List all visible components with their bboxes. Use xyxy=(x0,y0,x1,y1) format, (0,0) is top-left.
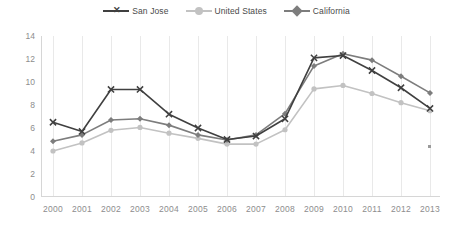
x-tick-label: 2013 xyxy=(420,204,440,214)
legend-item-san-jose[interactable]: ✕ San Jose xyxy=(103,6,168,16)
data-point-marker xyxy=(282,116,288,122)
y-tick-label: 0 xyxy=(30,192,35,202)
data-point-marker xyxy=(398,100,403,105)
x-tick-label: 2011 xyxy=(362,204,381,214)
data-point-marker xyxy=(79,140,84,145)
data-point-marker xyxy=(137,116,143,122)
series-line xyxy=(53,54,430,141)
data-point-marker xyxy=(50,138,56,144)
data-point-marker xyxy=(369,91,374,96)
data-point-marker xyxy=(166,131,171,136)
x-tick-label: 2012 xyxy=(391,204,411,214)
y-tick-label: 6 xyxy=(30,123,35,133)
legend-item-california[interactable]: California xyxy=(284,6,350,16)
plot-area: 14121086420 2000200120022003200420052006… xyxy=(41,36,440,197)
data-point-marker xyxy=(311,86,316,91)
x-tick-label: 2002 xyxy=(101,204,121,214)
legend-marker-circle-icon xyxy=(186,6,212,16)
data-point-marker xyxy=(108,117,114,123)
line-chart: ✕ San Jose United States California 1412… xyxy=(0,0,453,231)
legend-item-united-states[interactable]: United States xyxy=(186,6,267,16)
x-tick-label: 2000 xyxy=(43,204,63,214)
x-tick-label: 2008 xyxy=(275,204,295,214)
legend-label-san-jose: San Jose xyxy=(132,6,168,16)
data-point-marker xyxy=(108,128,113,133)
x-tick-label: 2010 xyxy=(333,204,353,214)
legend-label-united-states: United States xyxy=(215,6,267,16)
data-point-marker xyxy=(340,83,345,88)
legend-marker-x-icon: ✕ xyxy=(103,6,129,16)
legend-label-california: California xyxy=(313,6,350,16)
data-point-marker xyxy=(166,111,172,117)
data-point-marker xyxy=(50,148,55,153)
y-tick-label: 10 xyxy=(26,77,35,87)
data-point-marker xyxy=(398,85,404,91)
x-tick-label: 2005 xyxy=(188,204,208,214)
data-point-marker xyxy=(369,67,375,73)
legend-marker-diamond-icon xyxy=(284,6,310,16)
y-tick-label: 8 xyxy=(30,100,35,110)
chart-legend: ✕ San Jose United States California xyxy=(0,6,453,16)
data-point-marker xyxy=(166,122,172,128)
x-tick-label: 2001 xyxy=(72,204,92,214)
data-point-marker xyxy=(282,127,287,132)
x-tick-label: 2003 xyxy=(130,204,150,214)
x-tick-label: 2007 xyxy=(246,204,266,214)
y-tick-label: 14 xyxy=(26,31,35,41)
series-layer xyxy=(41,36,440,197)
data-point-marker xyxy=(253,142,258,147)
y-tick-label: 12 xyxy=(26,54,35,64)
y-tick-label: 4 xyxy=(30,146,35,156)
data-point-marker xyxy=(369,57,375,63)
x-tick-label: 2004 xyxy=(159,204,179,214)
data-point-marker xyxy=(137,125,142,130)
x-tick-label: 2009 xyxy=(304,204,324,214)
x-tick-label: 2006 xyxy=(217,204,237,214)
stray-dot-artifact xyxy=(428,145,431,148)
y-tick-label: 2 xyxy=(30,169,35,179)
